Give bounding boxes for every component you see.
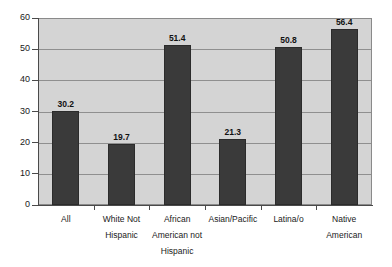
y-tick-label-wrap: 60 — [0, 13, 30, 22]
y-tick-label-wrap: 30 — [0, 107, 30, 116]
y-tick-label-wrap: 10 — [0, 169, 30, 178]
y-tick-20 — [32, 142, 38, 143]
bar — [52, 111, 79, 205]
bar-value-label: 19.7 — [102, 133, 142, 142]
gridline-10 — [39, 174, 371, 175]
category-label: American not — [137, 229, 217, 242]
y-tick-label-wrap: 0 — [0, 200, 30, 209]
x-tick — [316, 205, 317, 210]
y-tick-label: 40 — [0, 75, 30, 84]
category-label: American — [304, 229, 384, 242]
y-tick-label: 20 — [0, 138, 30, 147]
gridline-50 — [39, 49, 371, 50]
bar-value-label: 56.4 — [324, 18, 364, 27]
bar-value-label: 50.8 — [269, 36, 309, 45]
y-tick-label: 50 — [0, 44, 30, 53]
y-tick-label-wrap: 40 — [0, 75, 30, 84]
y-tick-10 — [32, 173, 38, 174]
x-tick — [94, 205, 95, 210]
bar-value-label: 21.3 — [213, 128, 253, 137]
bar — [331, 29, 358, 205]
y-tick-label: 60 — [0, 13, 30, 22]
category-label: Hispanic — [137, 245, 217, 258]
bar — [275, 47, 302, 205]
y-axis-line — [38, 18, 39, 206]
x-tick — [261, 205, 262, 210]
y-tick-label: 10 — [0, 169, 30, 178]
bar-value-label: 30.2 — [46, 100, 86, 109]
plot-area — [38, 18, 372, 205]
gridline-20 — [39, 143, 371, 144]
y-tick-label-wrap: 20 — [0, 138, 30, 147]
gridline-40 — [39, 80, 371, 81]
bar — [108, 144, 135, 205]
y-tick-label-wrap: 50 — [0, 44, 30, 53]
y-tick-label: 0 — [0, 200, 30, 209]
y-tick-30 — [32, 111, 38, 112]
gridline-30 — [39, 112, 371, 113]
category-label: Native — [304, 213, 384, 226]
bar — [164, 45, 191, 205]
y-tick-40 — [32, 80, 38, 81]
x-tick — [149, 205, 150, 210]
y-tick-50 — [32, 49, 38, 50]
y-tick-60 — [32, 18, 38, 19]
bar-value-label: 51.4 — [157, 34, 197, 43]
x-tick — [205, 205, 206, 210]
bar-chart: 0102030405060 30.219.751.421.350.856.4 A… — [0, 0, 392, 267]
bar — [219, 139, 246, 205]
y-tick-label: 30 — [0, 107, 30, 116]
